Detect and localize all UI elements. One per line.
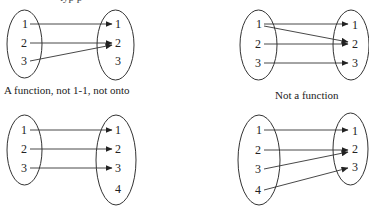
codomain-label: 3 bbox=[115, 54, 121, 68]
codomain-label: 1 bbox=[115, 17, 121, 31]
domain-label: 3 bbox=[255, 162, 261, 176]
codomain-label: 3 bbox=[352, 56, 358, 70]
codomain-label: 4 bbox=[115, 182, 121, 196]
domain-label: 2 bbox=[21, 142, 27, 156]
domain-label: 2 bbox=[255, 143, 261, 157]
domain-label: 2 bbox=[255, 37, 261, 51]
domain-label: 1 bbox=[22, 17, 28, 31]
codomain-label: 2 bbox=[115, 36, 121, 50]
codomain-label: 2 bbox=[352, 37, 358, 51]
codomain-ellipse bbox=[333, 113, 368, 185]
domain-label: 3 bbox=[255, 56, 261, 70]
panel-top-right: 1 2 3 1 2 3 bbox=[240, 10, 369, 80]
domain-label: 4 bbox=[255, 183, 261, 197]
domain-label: 3 bbox=[21, 161, 27, 175]
caption-top-left: A function, not 1-1, not onto bbox=[4, 84, 130, 96]
domain-label: 3 bbox=[21, 54, 27, 68]
domain-label: 1 bbox=[256, 123, 262, 137]
codomain-label: 2 bbox=[115, 142, 121, 156]
panel-bottom-right: 1 2 3 4 1 2 3 bbox=[238, 113, 368, 205]
panel-bottom-left: 1 2 3 1 2 3 4 bbox=[7, 115, 136, 205]
domain-label: 1 bbox=[256, 17, 262, 31]
diagram-canvas: 1 2 3 1 2 3 1 2 3 1 2 3 bbox=[0, 0, 369, 212]
cut-off-heading-text: typ p bbox=[60, 0, 82, 3]
codomain-label: 1 bbox=[352, 124, 358, 138]
function-mapping-diagrams: typ p 1 2 3 1 2 3 1 2 3 1 bbox=[0, 0, 369, 212]
codomain-ellipse bbox=[333, 10, 369, 80]
codomain-label: 3 bbox=[352, 160, 358, 174]
codomain-label: 3 bbox=[115, 161, 121, 175]
codomain-label: 2 bbox=[352, 142, 358, 156]
mapping-arrow bbox=[264, 168, 348, 190]
codomain-label: 1 bbox=[115, 123, 121, 137]
caption-top-right: Not a function bbox=[275, 89, 339, 101]
panel-top-left: 1 2 3 1 2 3 bbox=[7, 10, 134, 80]
domain-label: 2 bbox=[21, 36, 27, 50]
domain-label: 1 bbox=[21, 123, 27, 137]
codomain-label: 1 bbox=[352, 18, 358, 32]
